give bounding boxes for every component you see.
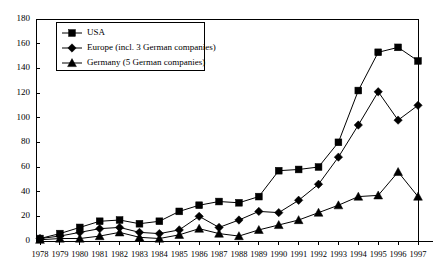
data-point-europe (334, 153, 342, 161)
legend-label: Europe (incl. 3 German companies) (87, 42, 216, 52)
data-point-europe (394, 116, 402, 124)
series-germany (36, 168, 423, 244)
data-point-usa (315, 164, 322, 171)
data-point-europe (374, 88, 382, 96)
y-tick-label: 120 (17, 87, 31, 97)
x-tick-label: 1990 (270, 249, 287, 259)
data-point-usa (395, 44, 402, 51)
data-point-europe (354, 121, 362, 129)
data-point-europe (235, 216, 243, 224)
data-point-usa (216, 198, 223, 205)
data-point-usa (196, 202, 203, 209)
data-point-usa (415, 58, 422, 65)
y-tick-label: 80 (21, 136, 31, 146)
x-tick-label: 1994 (350, 249, 368, 259)
data-point-usa (355, 87, 362, 94)
data-point-germany (314, 208, 323, 216)
x-axis-tick-labels: 1978197919801981198219831984198519861987… (32, 249, 427, 259)
x-tick-label: 1978 (32, 249, 49, 259)
data-point-usa (335, 139, 342, 146)
data-point-usa (156, 218, 163, 225)
y-tick-label: 100 (17, 112, 31, 122)
series-line-usa (40, 47, 418, 238)
legend-marker-square (69, 30, 76, 37)
series-layer (36, 44, 423, 243)
data-point-usa (295, 166, 302, 173)
x-tick-label: 1996 (390, 249, 407, 259)
x-tick-label: 1979 (51, 249, 68, 259)
y-tick-label: 180 (17, 13, 31, 23)
x-tick-label: 1988 (230, 249, 247, 259)
x-tick-label: 1993 (330, 249, 347, 259)
y-tick-label: 0 (26, 235, 31, 245)
y-tick-label: 160 (17, 38, 31, 48)
line-chart: 020406080100120140160180 197819791980198… (0, 0, 440, 270)
data-point-germany (334, 201, 343, 209)
x-tick-label: 1991 (290, 249, 307, 259)
series-europe (36, 88, 422, 243)
data-point-usa (96, 218, 103, 225)
x-tick-label: 1987 (211, 249, 228, 259)
data-point-usa (275, 167, 282, 174)
y-axis-tick-marks (36, 19, 40, 241)
x-tick-label: 1980 (71, 249, 88, 259)
x-tick-label: 1986 (191, 249, 208, 259)
x-tick-label: 1981 (91, 249, 108, 259)
y-tick-label: 40 (21, 186, 31, 196)
data-point-usa (136, 220, 143, 227)
data-point-germany (115, 228, 124, 236)
data-point-germany (195, 224, 204, 232)
data-point-europe (275, 208, 283, 216)
x-axis-tick-marks (40, 241, 418, 245)
data-point-usa (375, 49, 382, 56)
x-tick-label: 1995 (370, 249, 387, 259)
data-point-usa (236, 199, 243, 206)
legend-label: USA (87, 27, 106, 37)
series-usa (37, 44, 422, 242)
y-tick-label: 60 (21, 161, 31, 171)
data-point-germany (175, 230, 184, 238)
x-tick-label: 1982 (111, 249, 128, 259)
x-tick-label: 1985 (171, 249, 188, 259)
data-point-germany (294, 216, 303, 224)
data-point-usa (116, 217, 123, 224)
data-point-usa (176, 208, 183, 215)
data-point-usa (255, 193, 262, 200)
y-tick-label: 20 (21, 210, 31, 220)
data-point-europe (255, 207, 263, 215)
data-point-germany (394, 168, 403, 176)
x-tick-label: 1997 (410, 249, 427, 259)
x-tick-label: 1984 (151, 249, 169, 259)
x-tick-label: 1989 (250, 249, 267, 259)
legend-label: Germany (5 German companies) (87, 57, 205, 67)
y-tick-label: 140 (17, 62, 31, 72)
data-point-europe (414, 101, 422, 109)
series-line-europe (40, 92, 418, 239)
chart-legend: USAEurope (incl. 3 German companies)Germ… (56, 22, 216, 70)
chart-canvas: 020406080100120140160180 197819791980198… (0, 0, 440, 270)
y-axis-tick-labels: 020406080100120140160180 (17, 13, 31, 245)
data-point-europe (195, 212, 203, 220)
x-tick-label: 1992 (310, 249, 327, 259)
x-tick-label: 1983 (131, 249, 148, 259)
